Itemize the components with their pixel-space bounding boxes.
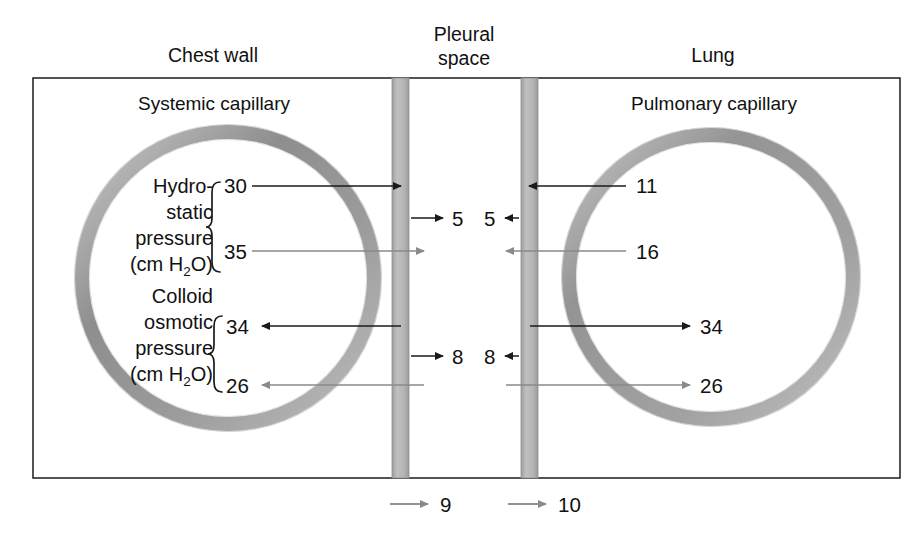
value-bottom-flow-right: 10: [558, 493, 581, 516]
left-hydrostatic-line-3: pressure: [135, 227, 213, 249]
value-left-colloid-34: 34: [226, 315, 249, 338]
left-colloid-line-2: osmotic: [144, 311, 213, 333]
units-subscript: 2: [183, 374, 191, 389]
header-chest-wall: Chest wall: [168, 44, 258, 66]
value-pleural-hydrostatic-left-5: 5: [452, 207, 463, 230]
header-pleural-space-line2: space: [438, 47, 490, 69]
value-right-colloid-34: 34: [700, 315, 723, 338]
visceral-pleura-membrane: [521, 78, 538, 478]
pleural-pressure-diagram: Chest wall Pleural space Lung Systemic c…: [0, 0, 924, 538]
diagram-canvas: Chest wall Pleural space Lung Systemic c…: [0, 0, 924, 538]
units-subscript: 2: [183, 264, 191, 279]
units-prefix: (cm H: [130, 363, 183, 385]
units-suffix: O): [191, 253, 213, 275]
left-colloid-line-1: Colloid: [152, 285, 213, 307]
left-hydrostatic-line-1: Hydro-: [153, 175, 213, 197]
left-hydrostatic-units: (cm H2O): [130, 253, 213, 279]
left-colloid-line-3: pressure: [135, 337, 213, 359]
svg-text:(cm H2O): (cm H2O): [130, 253, 213, 279]
value-pleural-hydrostatic-right-5: 5: [484, 207, 495, 230]
value-pleural-colloid-right-8: 8: [484, 345, 495, 368]
header-lung: Lung: [691, 44, 734, 66]
left-hydrostatic-label-group: Hydro- static pressure (cm H2O): [130, 175, 220, 279]
left-hydrostatic-line-2: static: [166, 201, 213, 223]
value-right-hydrostatic-11: 11: [636, 174, 657, 197]
header-pleural-space-line1: Pleural: [434, 23, 495, 45]
label-pulmonary-capillary: Pulmonary capillary: [631, 93, 797, 114]
svg-text:(cm H2O): (cm H2O): [130, 363, 213, 389]
value-right-hydrostatic-16: 16: [636, 240, 659, 263]
value-left-colloid-26: 26: [226, 374, 249, 397]
pulmonary-capillary-inner-edge: [577, 143, 846, 412]
value-bottom-flow-left: 9: [440, 493, 451, 516]
value-right-colloid-26: 26: [700, 374, 723, 397]
parietal-pleura-membrane: [392, 78, 409, 478]
diagram-frame: [33, 78, 900, 478]
units-suffix: O): [191, 363, 213, 385]
value-pleural-colloid-left-8: 8: [452, 345, 463, 368]
label-systemic-capillary: Systemic capillary: [138, 93, 291, 114]
left-colloid-label-group: Colloid osmotic pressure (cm H2O): [130, 285, 222, 392]
left-colloid-units: (cm H2O): [130, 363, 213, 389]
value-left-hydrostatic-30: 30: [224, 174, 247, 197]
value-left-hydrostatic-35: 35: [224, 240, 247, 263]
units-prefix: (cm H: [130, 253, 183, 275]
